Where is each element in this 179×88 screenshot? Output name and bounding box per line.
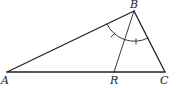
side-ab: [7, 11, 134, 72]
label-a: A: [0, 74, 9, 87]
triangle-diagram: A B R C: [0, 0, 179, 88]
label-c: C: [160, 74, 169, 87]
angle-tick-left: [111, 33, 115, 37]
label-b: B: [129, 0, 138, 11]
label-r: R: [109, 74, 118, 87]
